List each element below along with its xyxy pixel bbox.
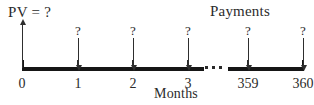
time-value-of-money-timeline-diagram: PV = ? Payments ? ? ? ? ? 0 1 2 3 359 36… [0,0,314,105]
axis-break-ellipsis-icon [205,64,225,70]
payment-question-mark-360: ? [300,24,306,37]
tick-label-360: 360 [293,77,314,91]
tick-label-2: 2 [130,77,137,91]
payment-arrow-period-360 [303,38,304,66]
tick-label-1: 1 [75,77,82,91]
payment-question-mark-2: ? [130,24,136,37]
timeline-axis-segment-right [228,67,304,71]
present-value-label: PV = ? [8,5,51,20]
payments-label: Payments [210,4,270,19]
payment-question-mark-359: ? [245,24,251,37]
axis-title-months: Months [154,87,198,101]
payment-arrow-period-2 [133,38,134,66]
payment-arrow-period-359 [248,38,249,66]
tick-label-359: 359 [238,77,259,91]
payment-question-mark-3: ? [185,24,191,37]
timeline-axis-segment-left [22,67,204,71]
payment-arrow-period-1 [78,38,79,66]
tick-label-0: 0 [19,77,26,91]
payment-arrow-period-3 [188,38,189,66]
payment-question-mark-1: ? [75,24,81,37]
present-value-arrow-up [22,24,23,68]
